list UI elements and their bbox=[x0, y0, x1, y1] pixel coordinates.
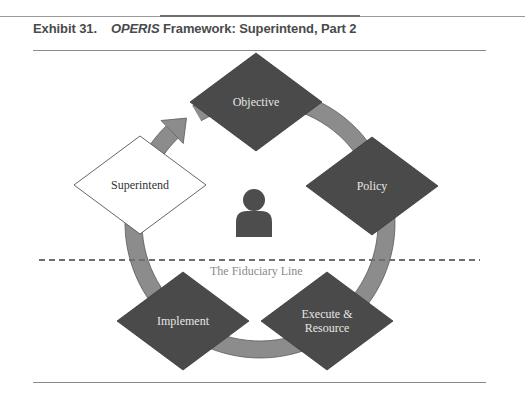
node-execute-label: Resource bbox=[305, 321, 350, 335]
fiduciary-line-label: The Fiduciary Line bbox=[210, 264, 303, 278]
node-objective-label: Objective bbox=[233, 95, 280, 109]
node-superintend: Superintend bbox=[74, 136, 206, 234]
node-superintend-label: Superintend bbox=[111, 178, 169, 192]
node-execute-label: Execute & bbox=[302, 307, 354, 321]
node-objective: Objective bbox=[190, 53, 322, 151]
node-implement: Implement bbox=[117, 272, 249, 370]
node-implement-label: Implement bbox=[157, 314, 210, 328]
node-policy: Policy bbox=[306, 137, 438, 235]
operis-diagram: The Fiduciary Line ObjectivePolicyExecut… bbox=[0, 0, 525, 400]
bottom-rule bbox=[33, 382, 486, 383]
node-policy-label: Policy bbox=[357, 179, 388, 193]
person-icon bbox=[236, 189, 272, 237]
